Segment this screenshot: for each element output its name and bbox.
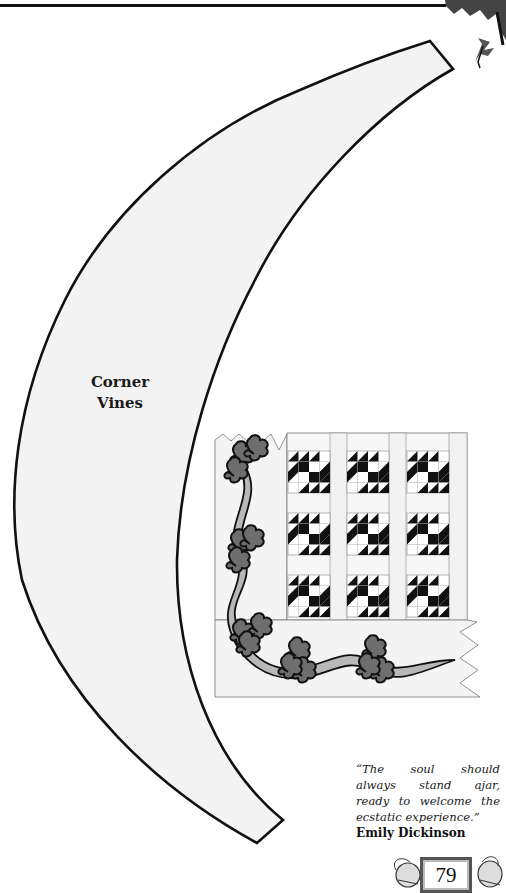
quote-line-3: ready to welcome the — [356, 793, 500, 809]
quilt-preview — [215, 433, 480, 697]
quote-line-4: ecstatic experience.” — [356, 809, 500, 825]
page-number-box: 79 — [420, 857, 472, 893]
quote-line-2: always stand ajar, — [356, 777, 500, 793]
label-line-2: Vines — [80, 393, 160, 414]
corner-flourish-icon — [445, 0, 506, 68]
page-number: 79 — [423, 860, 469, 890]
quote-author: Emily Dickinson — [356, 826, 465, 840]
label-line-1: Corner — [80, 372, 160, 393]
pattern-piece-label: Corner Vines — [80, 372, 160, 414]
quote-block: “The soul should always stand ajar, read… — [356, 761, 500, 825]
quote-line-1: “The soul should — [356, 761, 500, 777]
